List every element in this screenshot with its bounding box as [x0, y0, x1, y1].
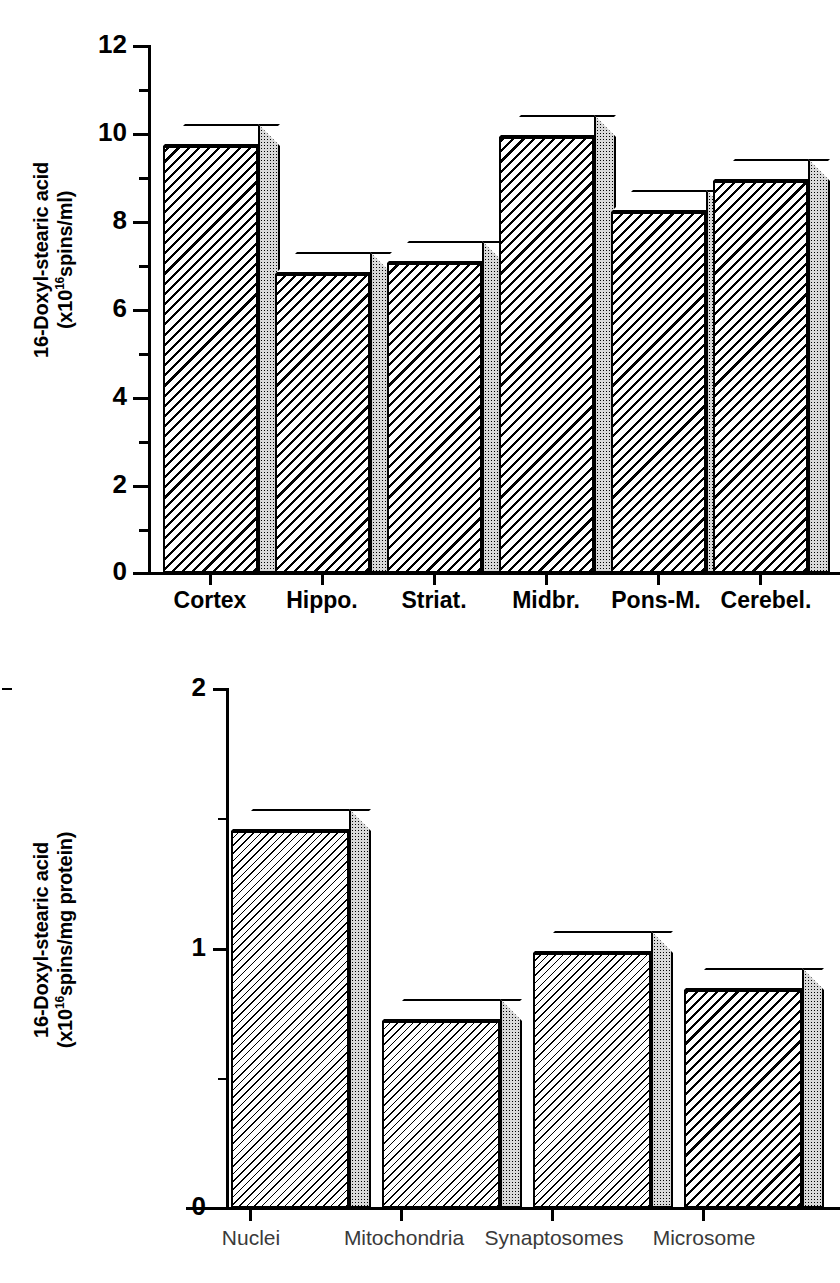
bar-hippo-front-face: [275, 274, 370, 573]
x-tick-top-1: [321, 572, 324, 585]
x-tick-label-bottom-synaptosomes: Synaptosomes: [484, 1227, 624, 1248]
y-tick-label-top-3: 6: [85, 295, 127, 321]
margin-tick-mark: [2, 688, 12, 690]
y-tick-label-top-1: 10: [85, 119, 127, 145]
x-tick-top-2: [433, 572, 436, 585]
y-axis-label-top-prefix: (x10: [54, 290, 76, 329]
y-axis-label-top-line2: (x1016spins/ml): [54, 50, 78, 470]
y-minor-tick-bottom-0p5: [218, 1078, 229, 1080]
y-tick-label-top-5: 2: [85, 471, 127, 497]
y-axis-label-bottom: 16-Doxyl-stearic acid (x1016spins/mg pro…: [30, 700, 77, 1180]
chart-panel-top: 16-Doxyl-stearic acid (x1016spins/ml) 12…: [0, 0, 840, 640]
bar-midbr: [499, 115, 616, 573]
x-tick-label-bottom-microsome: Microsome: [638, 1227, 770, 1248]
bar-nuclei-side-face: [349, 809, 371, 1208]
y-minor-tick-7: [139, 265, 149, 268]
bar-synaptosomes: [533, 931, 673, 1208]
y-minor-tick-5: [139, 353, 149, 356]
y-minor-tick-3: [139, 441, 149, 444]
y-axis-label-bottom-suffix: spins/mg protein): [54, 832, 76, 996]
bar-microsome: [684, 968, 824, 1208]
y-major-tick-0: [133, 572, 149, 575]
bar-mitochondria-front-face: [382, 1021, 500, 1208]
figure-root: 16-Doxyl-stearic acid (x1016spins/ml) 12…: [0, 0, 840, 1283]
x-tick-top-4: [657, 572, 660, 585]
y-major-tick-10: [133, 133, 149, 136]
y-axis-label-bottom-exponent: 16: [53, 996, 67, 1009]
y-tick-label-top-2: 8: [85, 207, 127, 233]
x-tick-label-top-cerebel: Cerebel.: [692, 589, 840, 612]
y-major-tick-2: [133, 485, 149, 488]
y-minor-tick-bottom-1p5: [218, 818, 229, 820]
y-axis-label-bottom-line2: (x1016spins/mg protein): [54, 700, 78, 1180]
y-tick-label-top-6: 0: [85, 558, 127, 584]
bar-pons-m-front-face: [611, 212, 706, 573]
y-minor-tick-1: [139, 529, 149, 532]
bar-striat-front-face: [387, 263, 482, 573]
bar-cerebel-front-face: [713, 181, 808, 573]
y-tick-label-top-4: 4: [85, 383, 127, 409]
chart-panel-bottom: 16-Doxyl-stearic acid (x1016spins/mg pro…: [0, 640, 840, 1283]
x-tick-bottom-1: [400, 1207, 403, 1221]
bar-cerebel-side-face: [808, 159, 830, 573]
y-axis-label-bottom-prefix: (x10: [54, 1009, 76, 1048]
x-tick-top-5: [759, 572, 762, 585]
bar-hippo: [275, 252, 392, 573]
x-tick-label-bottom-nuclei: Nuclei: [190, 1227, 312, 1248]
y-major-tick-bottom-1: [213, 948, 229, 951]
bar-nuclei-front-face: [231, 831, 349, 1208]
y-major-tick-bottom-2: [213, 688, 229, 691]
y-tick-label-bottom-1: 1: [170, 934, 206, 960]
bar-mitochondria: [382, 999, 522, 1208]
x-tick-bottom-0: [249, 1207, 252, 1221]
bar-striat: [387, 241, 504, 573]
bar-cerebel: [713, 159, 830, 573]
bar-microsome-front-face: [684, 990, 802, 1208]
y-major-tick-6: [133, 309, 149, 312]
y-axis-label-top: 16-Doxyl-stearic acid (x1016spins/ml): [30, 50, 77, 470]
bar-cortex: [163, 124, 280, 573]
y-axis-label-top-exponent: 16: [53, 277, 67, 290]
x-tick-bottom-3: [702, 1207, 705, 1221]
bar-mitochondria-side-face: [500, 999, 522, 1208]
bar-cortex-front-face: [163, 146, 258, 573]
y-axis-label-top-line1: 16-Doxyl-stearic acid: [30, 50, 54, 470]
y-tick-label-bottom-0: 2: [170, 674, 206, 700]
bar-microsome-side-face: [802, 968, 824, 1208]
y-tick-label-top-0: 12: [85, 31, 127, 57]
x-tick-bottom-2: [551, 1207, 554, 1221]
y-major-tick-8: [133, 221, 149, 224]
y-axis-label-bottom-line1: 16-Doxyl-stearic acid: [30, 700, 54, 1180]
bar-midbr-front-face: [499, 137, 594, 573]
bar-synaptosomes-front-face: [533, 953, 651, 1208]
y-axis-label-top-suffix: spins/ml): [54, 191, 76, 277]
y-major-tick-4: [133, 397, 149, 400]
bar-pons-m: [611, 190, 728, 573]
x-tick-top-3: [545, 572, 548, 585]
y-minor-tick-9: [139, 177, 149, 180]
x-tick-label-bottom-mitochondria: Mitochondria: [336, 1227, 472, 1248]
x-tick-top-0: [209, 572, 212, 585]
bar-synaptosomes-side-face: [651, 931, 673, 1208]
y-tick-label-bottom-2: 0: [170, 1193, 206, 1219]
bar-nuclei: [231, 809, 371, 1208]
y-major-tick-12: [133, 45, 149, 48]
y-minor-tick-11: [139, 89, 149, 92]
